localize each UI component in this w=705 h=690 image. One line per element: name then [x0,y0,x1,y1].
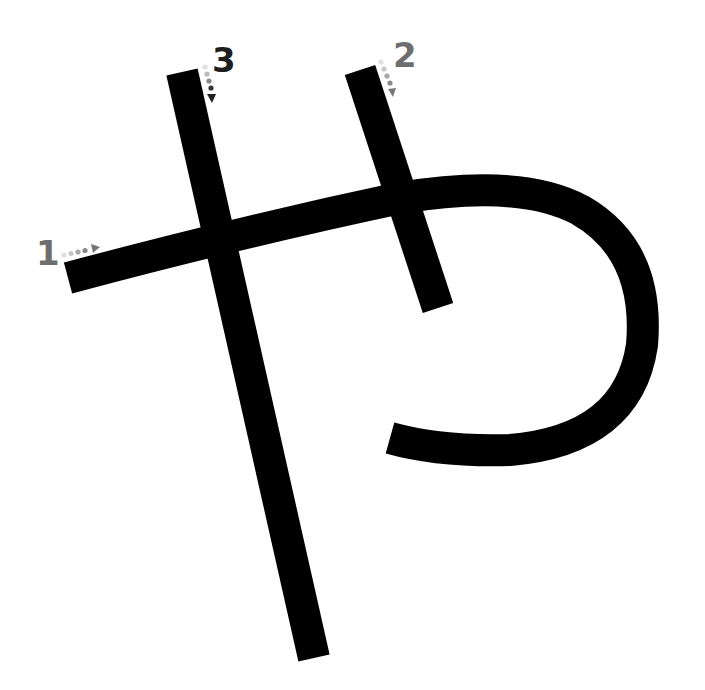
stroke-3-number: 3 [212,40,236,80]
stroke-1-horizontal-curve [68,190,643,450]
stroke-2-number: 2 [393,35,417,75]
stroke-3-long-vertical [182,72,314,658]
stroke-3-marker: 3 [202,40,235,103]
stroke-2-marker: 2 [378,35,416,97]
stroke-order-diagram: 1 2 3 [0,0,705,690]
stroke-1-number: 1 [36,233,60,273]
